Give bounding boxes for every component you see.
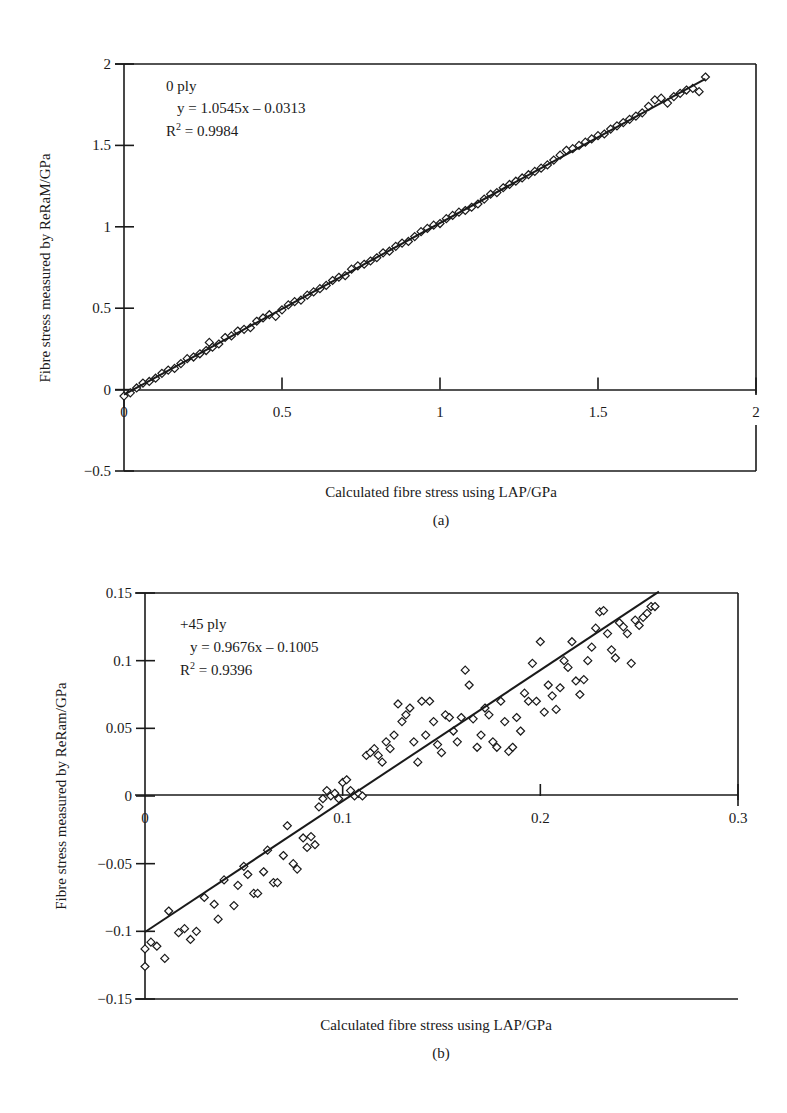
chart-b-panel-label: (b) <box>432 1045 450 1062</box>
data-point-diamond-icon <box>378 758 386 766</box>
data-point-diamond-icon <box>315 803 323 811</box>
data-point-diamond-icon <box>536 638 544 646</box>
data-point-diamond-icon <box>473 743 481 751</box>
data-point-diamond-icon <box>319 795 327 803</box>
data-point-diamond-icon <box>540 708 548 716</box>
data-point-diamond-icon <box>210 900 218 908</box>
data-point-diamond-icon <box>303 843 311 851</box>
data-point-diamond-icon <box>588 643 596 651</box>
data-point-diamond-icon <box>244 870 252 878</box>
chart-b-equation: y = 0.9676x – 0.1005 <box>190 639 318 655</box>
chart-a-series-name: 0 ply <box>166 78 197 94</box>
data-point-diamond-icon <box>580 676 588 684</box>
data-point-diamond-icon <box>438 749 446 757</box>
data-point-diamond-icon <box>161 954 169 962</box>
figure-canvas: −0.500.511.52 00.511.52 0 ply y = 1.0545… <box>0 0 787 1113</box>
data-point-diamond-icon <box>544 681 552 689</box>
chart-a-equation: y = 1.0545x – 0.0313 <box>177 100 305 116</box>
data-point-diamond-icon <box>604 630 612 638</box>
data-point-diamond-icon <box>406 704 414 712</box>
data-point-diamond-icon <box>576 691 584 699</box>
data-point-diamond-icon <box>548 692 556 700</box>
data-point-diamond-icon <box>623 630 631 638</box>
data-point-diamond-icon <box>568 638 576 646</box>
data-point-diamond-icon <box>214 915 222 923</box>
x-tick-label: 0 <box>120 404 128 420</box>
data-point-diamond-icon <box>230 902 238 910</box>
data-point-diamond-icon <box>524 697 532 705</box>
chart-a-y-axis-title: Fibre stress measured by ReRaM/GPa <box>37 153 53 382</box>
data-point-diamond-icon <box>453 738 461 746</box>
chart-a-panel-label: (a) <box>433 512 450 529</box>
data-point-diamond-icon <box>607 646 615 654</box>
data-point-diamond-icon <box>465 681 473 689</box>
x-tick-label: 0.5 <box>273 404 292 420</box>
chart-a: −0.500.511.52 00.511.52 0 ply y = 1.0545… <box>37 56 760 529</box>
chart-b-y-ticks: −0.15−0.1−0.0500.050.10.15 <box>97 585 155 1007</box>
x-tick-label: 1.5 <box>589 404 608 420</box>
chart-b-r-squared: R2 = 0.9396 <box>180 660 253 678</box>
data-point-diamond-icon <box>430 718 438 726</box>
data-point-diamond-icon <box>410 738 418 746</box>
data-point-diamond-icon <box>517 727 525 735</box>
data-point-diamond-icon <box>386 745 394 753</box>
y-tick-label: −0.05 <box>97 856 132 872</box>
data-point-diamond-icon <box>382 738 390 746</box>
data-point-diamond-icon <box>584 657 592 665</box>
data-point-diamond-icon <box>485 711 493 719</box>
data-point-diamond-icon <box>141 963 149 971</box>
data-point-diamond-icon <box>513 714 521 722</box>
data-point-diamond-icon <box>461 666 469 674</box>
x-tick-label: 0.3 <box>729 810 748 826</box>
data-point-diamond-icon <box>418 697 426 705</box>
data-point-diamond-icon <box>186 935 194 943</box>
y-tick-label: 0.1 <box>113 653 132 669</box>
data-point-diamond-icon <box>311 841 319 849</box>
chart-b: −0.15−0.1−0.0500.050.10.15 00.10.20.3 +4… <box>53 585 747 1062</box>
data-point-diamond-icon <box>564 663 572 671</box>
chart-b-y-axis-title: Fibre stress measured by ReRam/GPa <box>53 682 69 910</box>
y-tick-label: 0.5 <box>92 300 111 316</box>
y-tick-label: 0 <box>104 382 112 398</box>
data-point-diamond-icon <box>390 731 398 739</box>
chart-a-r-squared: R2 = 0.9984 <box>166 121 239 139</box>
data-point-diamond-icon <box>260 868 268 876</box>
chart-b-series-name: +45 ply <box>180 616 227 632</box>
y-tick-label: 0.15 <box>106 585 132 601</box>
data-point-diamond-icon <box>414 758 422 766</box>
chart-b-data-points <box>141 603 659 971</box>
data-point-diamond-icon <box>501 718 509 726</box>
y-tick-label: 1.5 <box>92 137 111 153</box>
y-tick-label: −0.1 <box>105 923 132 939</box>
data-point-diamond-icon <box>394 700 402 708</box>
data-point-diamond-icon <box>560 657 568 665</box>
data-point-diamond-icon <box>422 731 430 739</box>
data-point-diamond-icon <box>192 927 200 935</box>
data-point-diamond-icon <box>611 654 619 662</box>
data-point-diamond-icon <box>141 945 149 953</box>
x-tick-label: 2 <box>752 404 760 420</box>
data-point-diamond-icon <box>528 659 536 667</box>
x-tick-label: 0.2 <box>531 810 550 826</box>
y-tick-label: 1 <box>104 219 112 235</box>
data-point-diamond-icon <box>279 852 287 860</box>
chart-a-x-ticks: 00.511.52 <box>120 378 760 420</box>
data-point-diamond-icon <box>532 697 540 705</box>
data-point-diamond-icon <box>374 751 382 759</box>
data-point-diamond-icon <box>627 659 635 667</box>
data-point-diamond-icon <box>299 834 307 842</box>
chart-b-x-axis-title: Calculated fibre stress using LAP/GPa <box>320 1017 552 1033</box>
data-point-diamond-icon <box>234 881 242 889</box>
data-point-diamond-icon <box>434 741 442 749</box>
x-tick-label: 0.1 <box>333 810 352 826</box>
data-point-diamond-icon <box>552 705 560 713</box>
y-tick-label: 0 <box>125 788 133 804</box>
data-point-diamond-icon <box>307 833 315 841</box>
x-tick-label: 1 <box>436 404 444 420</box>
y-tick-label: −0.5 <box>84 463 111 479</box>
data-point-diamond-icon <box>283 822 291 830</box>
data-point-diamond-icon <box>402 711 410 719</box>
x-tick-label: 0 <box>141 810 149 826</box>
data-point-diamond-icon <box>426 697 434 705</box>
chart-a-x-axis-title: Calculated fibre stress using LAP/GPa <box>325 484 557 500</box>
